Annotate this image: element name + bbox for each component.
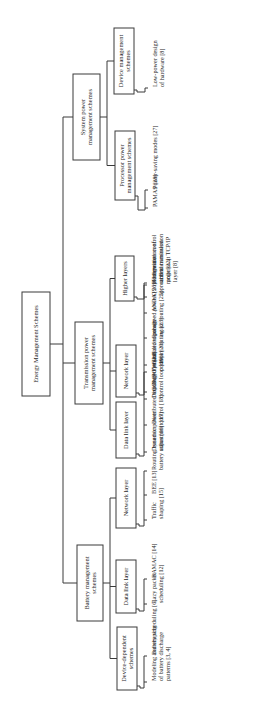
node-network-layer-bat-label: Network layer	[122, 479, 129, 517]
energy-management-tree-diagram: Energy Management SchemesSystem powerman…	[0, 0, 266, 713]
leaf-text: control [20]	[157, 342, 164, 371]
leaf-text: Battery scheduling [6]	[150, 600, 157, 655]
leaf-network-layer-tx-3: ANDA [26]	[150, 283, 157, 312]
node-system-label-line: management schemes	[86, 89, 93, 145]
leaf-text: BAMAC [14]	[150, 543, 157, 578]
leaf-text: shaping [15]	[157, 488, 164, 519]
node-transmission-label-line: management schemes	[89, 335, 96, 391]
node-data-link-tx-label-line: Data link layer	[122, 410, 129, 449]
node-device-management-label-line: schemes	[124, 50, 131, 72]
leaf-text: scheduling [12]	[157, 564, 164, 603]
leaf-text: battery status [16]	[157, 425, 164, 470]
leaf-text: aware routing [25]	[157, 291, 164, 337]
node-higher-layers-label: Higher layers	[121, 261, 128, 296]
node-battery-label-line: Battery management	[83, 556, 90, 609]
node-device-dependent-label-line: schemes	[127, 647, 134, 669]
node-higher-layers-label-line: Higher layers	[121, 261, 128, 296]
node-network-layer-bat-label-line: Network layer	[122, 479, 129, 517]
leaf-data-link-bat-1: BAMAC [14]	[150, 543, 157, 578]
leaf-network-layer-bat-1: BEE [13]	[150, 470, 157, 494]
node-network-layer-tx-label-line: Network layer	[122, 352, 129, 390]
node-data-link-bat-label-line: Data link layer	[122, 567, 129, 606]
leaf-text: Traffic	[150, 502, 157, 519]
leaf-text: Low-power design	[151, 40, 158, 87]
node-battery-label-line: schemes	[90, 572, 97, 594]
leaf-text: critical transmission	[157, 234, 164, 284]
node-processor-power-label-line: Processor power	[118, 143, 125, 186]
leaf-text: patterns [3, 4]	[164, 646, 171, 681]
leaf-text: range [22]	[164, 258, 171, 284]
leaf-text: of battery discharge	[157, 632, 164, 681]
node-data-link-tx-label: Data link layer	[122, 410, 129, 449]
leaf-text: PAMAS [28]	[151, 174, 158, 207]
leaf-text: Routing based on	[150, 427, 157, 470]
node-system-label-line: System power	[79, 98, 86, 135]
tree-nodes: Energy Management SchemesSystem powerman…	[22, 28, 178, 690]
leaf-text: Centralized topology	[150, 318, 157, 371]
leaf-device-management-0: Low-power designof hardware [8]	[151, 40, 165, 87]
root-label-line: Energy Management Schemes	[32, 305, 39, 383]
root-label: Energy Management Schemes	[32, 305, 39, 383]
node-processor-power-label-line: management schemes	[125, 137, 132, 193]
node-device-dependent-label-line: Device-dependent	[120, 635, 127, 682]
node-transmission-label: Transmission powermanagement schemes	[82, 335, 96, 391]
node-transmission-label-line: Transmission power	[82, 336, 89, 389]
node-data-link-bat-label: Data link layer	[122, 567, 129, 606]
leaf-text: Determination of	[150, 241, 157, 284]
leaf-text: ANDA [26]	[150, 283, 157, 312]
node-processor-power-label: Processor powermanagement schemes	[118, 137, 132, 193]
node-network-layer-tx-label: Network layer	[122, 352, 129, 390]
leaf-text: layer [8]	[171, 261, 178, 282]
node-device-management-label-line: Device management	[117, 35, 124, 88]
leaf-text: control [18]	[157, 395, 164, 424]
leaf-device-dependent-1: Battery scheduling [6]	[150, 600, 157, 655]
leaf-text: BEE [13]	[150, 470, 157, 494]
leaf-text: of hardware [8]	[158, 49, 165, 87]
leaf-processor-power-1: PAMAS [28]	[151, 174, 158, 207]
leaf-network-layer-bat-2: Routing based onbattery status [16]	[150, 425, 164, 470]
